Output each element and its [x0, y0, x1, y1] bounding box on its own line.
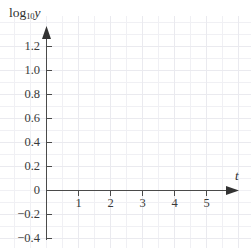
y-axis-title-variable: y — [34, 5, 40, 20]
y-tick-label-0-6: 0.6 — [0, 112, 40, 125]
x-tick-label-4: 4 — [164, 197, 185, 210]
horizontal-axis-arrowhead — [226, 186, 239, 195]
x-tick-label-5: 5 — [196, 197, 217, 210]
y-tick-label-1-2: 1.2 — [0, 40, 40, 53]
x-tick-label-2: 2 — [100, 197, 121, 210]
y-tick-label-neg-0-4: −0.4 — [0, 232, 40, 245]
y-tick-label-0-8: 0.8 — [0, 88, 40, 101]
y-tick-label-0: 0 — [0, 184, 40, 197]
y-tick-label-neg-0-2: −0.2 — [0, 208, 40, 221]
y-tick-label-0-4: 0.4 — [0, 136, 40, 149]
vertical-axis-arrowhead — [42, 26, 51, 39]
y-tick-label-1-0: 1.0 — [0, 64, 40, 77]
x-tick-label-3: 3 — [132, 197, 153, 210]
vertical-axis-ticks — [47, 47, 53, 239]
y-axis-title: log10y — [9, 6, 40, 20]
y-axis-title-base: log — [9, 5, 26, 20]
x-tick-label-1: 1 — [68, 197, 89, 210]
y-tick-label-0-2: 0.2 — [0, 160, 40, 173]
chart-figure: log10y t 1.2 1.0 0.8 0.6 0.4 0.2 0 −0.2 … — [0, 0, 251, 248]
x-axis-title: t — [235, 169, 239, 182]
